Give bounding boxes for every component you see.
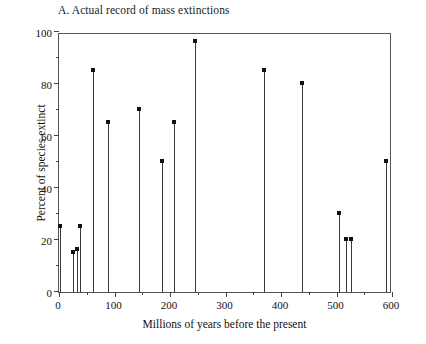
- y-tick-label: 80: [41, 79, 52, 91]
- x-tick-mark-minor: [87, 292, 88, 295]
- data-point-marker: [58, 224, 62, 228]
- data-point-stem: [339, 214, 340, 292]
- x-tick-label: 400: [272, 299, 289, 311]
- data-point-stem: [73, 253, 74, 292]
- x-tick-mark-minor: [198, 292, 199, 295]
- data-point-stem: [162, 162, 163, 292]
- data-point-stem: [264, 71, 265, 292]
- data-point-stem: [351, 240, 352, 292]
- data-point-marker: [75, 247, 79, 251]
- y-tick-mark-minor: [56, 265, 59, 266]
- data-point-marker: [337, 211, 341, 215]
- y-tick-label: 0: [47, 287, 53, 299]
- y-tick-mark: [54, 135, 59, 136]
- y-tick-mark: [54, 31, 59, 32]
- y-axis-label: Percent of species extinct: [35, 104, 47, 221]
- data-point-stem: [386, 162, 387, 292]
- data-point-stem: [139, 110, 140, 292]
- data-point-marker: [137, 107, 141, 111]
- x-tick-label: 300: [216, 299, 233, 311]
- y-tick-mark-minor: [56, 109, 59, 110]
- x-axis-label: Millions of years before the present: [58, 318, 391, 330]
- data-point-marker: [384, 159, 388, 163]
- x-tick-mark: [392, 292, 393, 297]
- data-point-stem: [77, 250, 78, 292]
- data-point-stem: [195, 42, 196, 292]
- data-point-marker: [193, 39, 197, 43]
- x-tick-label: 200: [161, 299, 178, 311]
- x-tick-mark-minor: [364, 292, 365, 295]
- x-tick-mark: [337, 292, 338, 297]
- y-tick-mark-minor: [56, 57, 59, 58]
- x-tick-mark: [115, 292, 116, 297]
- data-point-stem: [108, 123, 109, 292]
- data-point-marker: [91, 68, 95, 72]
- y-tick-mark: [54, 83, 59, 84]
- x-tick-mark-minor: [253, 292, 254, 295]
- data-point-stem: [60, 227, 61, 292]
- data-point-stem: [93, 71, 94, 292]
- y-tick-label: 60: [41, 131, 52, 143]
- data-point-stem: [80, 227, 81, 292]
- chart-title: A. Actual record of mass extinctions: [58, 4, 230, 16]
- x-tick-mark: [281, 292, 282, 297]
- plot-area: Percent of species extinct: [58, 33, 391, 293]
- y-tick-mark-minor: [56, 161, 59, 162]
- extinction-chart-figure: A. Actual record of mass extinctions Per…: [0, 0, 426, 344]
- x-tick-mark: [170, 292, 171, 297]
- x-tick-mark: [226, 292, 227, 297]
- data-point-marker: [349, 237, 353, 241]
- y-tick-mark-minor: [56, 213, 59, 214]
- data-point-marker: [160, 159, 164, 163]
- y-tick-label: 40: [41, 183, 52, 195]
- data-point-stem: [346, 240, 347, 292]
- data-point-marker: [172, 120, 176, 124]
- data-point-marker: [344, 237, 348, 241]
- x-tick-label: 0: [55, 299, 61, 311]
- x-tick-mark: [59, 292, 60, 297]
- data-point-marker: [262, 68, 266, 72]
- y-tick-mark: [54, 239, 59, 240]
- x-tick-label: 100: [105, 299, 122, 311]
- data-point-marker: [106, 120, 110, 124]
- data-point-stem: [302, 84, 303, 292]
- x-tick-label: 600: [383, 299, 400, 311]
- data-point-marker: [300, 81, 304, 85]
- x-tick-mark-minor: [142, 292, 143, 295]
- x-tick-label: 500: [327, 299, 344, 311]
- data-point-marker: [78, 224, 82, 228]
- y-tick-label: 100: [36, 27, 53, 39]
- y-tick-label: 20: [41, 235, 52, 247]
- y-tick-mark: [54, 187, 59, 188]
- x-tick-mark-minor: [309, 292, 310, 295]
- data-point-stem: [174, 123, 175, 292]
